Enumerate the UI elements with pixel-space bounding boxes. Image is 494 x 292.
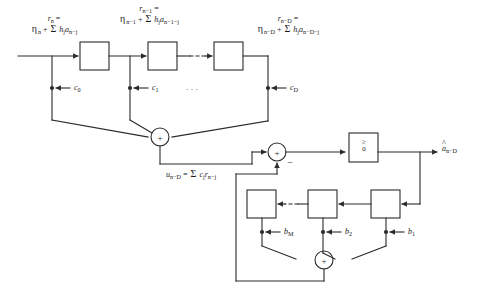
junction-b2: [321, 230, 325, 234]
delay-box-3: [214, 42, 243, 70]
summer-3-sign: +: [321, 256, 326, 266]
label-r-n-1: rn−1 = ηn−1 + Σ hjan−1−j: [88, 4, 210, 25]
label-coefficient-b2: b2: [345, 227, 352, 236]
delay-box-2: [148, 42, 177, 70]
label-r-n-D-line2: ηn−D + Σ hjan−D−j: [224, 23, 352, 35]
threshold-detector-symbol: ≥ 0: [352, 139, 376, 153]
threshold-symbol-bottom: 0: [352, 146, 376, 153]
delay-box-1: [80, 42, 109, 70]
junction-bM: [260, 230, 264, 234]
fb-delay-box-1: [371, 190, 400, 218]
fb-delay-box-M: [247, 190, 276, 218]
diagram-wires: + + + −: [0, 0, 494, 292]
label-coefficient-c0: c0: [74, 83, 81, 92]
label-r-n-D: rn−D = ηn−D + Σ hjan−D−j: [224, 14, 352, 35]
label-coefficient-cD: cD: [290, 83, 298, 92]
junction-b1: [384, 230, 388, 234]
label-coefficient-bM: bM: [284, 227, 294, 236]
fb-delay-box-2: [308, 190, 337, 218]
label-r-n-line2: ηn + Σ hjan−j: [6, 23, 102, 35]
wire-tap-b1-to-summer3: [352, 246, 386, 259]
label-coefficient-b1: b1: [408, 227, 415, 236]
label-u-n-D: un−D = Σ cjrn−j: [166, 168, 216, 180]
forward-tap-ellipsis: ···: [186, 84, 200, 94]
junction-c1: [128, 86, 132, 90]
label-r-n-1-line1: rn−1 =: [88, 4, 210, 13]
label-coefficient-c1: c1: [152, 83, 159, 92]
dfe-block-diagram: + + + − rn = ηn + Σ hjan−j rn−1 = ηn−1 +…: [0, 0, 494, 292]
summer-2-minus-sign: −: [287, 157, 293, 168]
label-output-a-hat: ^an−D: [442, 144, 457, 153]
summer-1-sign: +: [157, 133, 162, 143]
label-r-n-1-line2: ηn−1 + Σ hjan−1−j: [88, 13, 210, 25]
wire-tap-c1-to-summer: [130, 120, 152, 133]
summer-2-sign: +: [274, 148, 279, 158]
wire-tap-bM-to-summer3: [262, 246, 296, 259]
wire-tap-cD-to-summer: [172, 121, 268, 137]
label-r-n-D-line1: rn−D =: [224, 14, 352, 23]
junction-c0: [50, 86, 54, 90]
junction-cD: [266, 86, 270, 90]
